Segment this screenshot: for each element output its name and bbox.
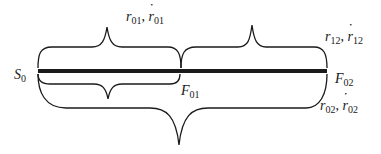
segment-diagram	[0, 0, 381, 154]
r02-separator: ,	[335, 98, 339, 113]
f01-symbol: F	[181, 83, 190, 98]
r02-star-subscript: 02	[348, 104, 358, 115]
label-r12: r12, r12	[325, 30, 363, 46]
r02-subscript: 02	[325, 104, 335, 115]
r12-star: r	[347, 29, 352, 44]
label-f02: F02	[335, 72, 354, 88]
f02-symbol: F	[335, 71, 344, 86]
f02-subscript: 02	[344, 77, 354, 88]
label-f01: F01	[181, 84, 200, 100]
r01-subscript: 01	[131, 15, 141, 26]
f01-subscript: 01	[190, 89, 200, 100]
r12-subscript: 12	[330, 35, 340, 46]
label-s0: S0	[14, 68, 26, 84]
r12-star-subscript: 12	[353, 35, 363, 46]
upper-left-brace	[38, 27, 181, 68]
r02-star: r	[342, 98, 347, 113]
label-r02: r02, r02	[320, 99, 358, 115]
r12-separator: ,	[340, 29, 344, 44]
lower-short-brace	[38, 74, 180, 99]
r01-separator: ,	[141, 9, 145, 24]
upper-right-brace	[181, 25, 327, 68]
s0-subscript: 0	[21, 73, 26, 84]
s0-symbol: S	[14, 67, 21, 82]
r01-star: r	[148, 9, 153, 24]
r01-star-subscript: 01	[154, 15, 164, 26]
label-r01: r01, r01	[126, 10, 164, 26]
